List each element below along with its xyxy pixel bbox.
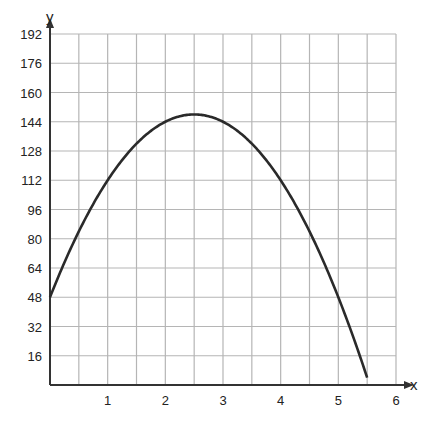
x-axis-label: x	[410, 376, 418, 393]
y-tick-labels: 163248648096112128144160176192	[20, 27, 42, 364]
axes	[46, 18, 414, 389]
y-tick-label: 160	[20, 86, 42, 101]
y-tick-label: 48	[28, 290, 42, 305]
grid	[50, 34, 396, 385]
y-tick-label: 192	[20, 27, 42, 42]
y-tick-label: 80	[28, 232, 42, 247]
y-tick-label: 176	[20, 56, 42, 71]
y-tick-label: 128	[20, 144, 42, 159]
x-tick-label: 2	[162, 393, 169, 408]
data-curve	[50, 114, 367, 377]
y-tick-label: 32	[28, 320, 42, 335]
x-tick-label: 3	[219, 393, 226, 408]
y-axis-label: y	[46, 8, 54, 25]
x-tick-labels: 123456	[104, 393, 400, 408]
y-tick-label: 112	[21, 173, 42, 188]
y-tick-label: 16	[28, 349, 42, 364]
x-tick-label: 5	[335, 393, 342, 408]
x-tick-label: 1	[104, 393, 111, 408]
y-tick-label: 144	[20, 115, 42, 130]
x-tick-label: 4	[277, 393, 284, 408]
parabola-chart: 163248648096112128144160176192 123456 x …	[0, 0, 434, 432]
y-tick-label: 64	[28, 261, 42, 276]
x-tick-label: 6	[392, 393, 399, 408]
y-tick-label: 96	[28, 203, 42, 218]
